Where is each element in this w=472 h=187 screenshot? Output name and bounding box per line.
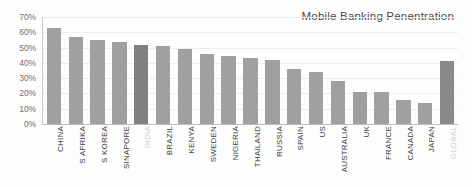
y-axis-tick: 30% — [19, 73, 36, 83]
x-axis-label: SWEDEN — [209, 126, 218, 162]
bar — [287, 69, 301, 124]
x-axis-label: AUSTRALIA — [340, 126, 349, 172]
x-axis-label: GLOBAL — [449, 126, 458, 159]
bar — [69, 37, 83, 124]
x-axis-label: FRANCE — [384, 126, 393, 160]
y-axis-tick: 0% — [24, 119, 36, 129]
y-axis-tick: 60% — [19, 27, 36, 37]
bar — [47, 28, 61, 124]
x-axis-label: S AFRIKA — [78, 126, 87, 164]
x-axis-category-labels: CHINAS AFRIKAS KOREASINAPOREINDIABRAZILK… — [42, 126, 457, 186]
x-axis-label: CHINA — [56, 126, 65, 152]
y-axis-tick: 70% — [19, 12, 36, 22]
y-axis-tick: 40% — [19, 58, 36, 68]
bar — [440, 61, 454, 124]
x-axis-label: JAPAN — [427, 126, 436, 152]
bar — [221, 56, 235, 124]
x-axis-label: US — [318, 126, 327, 138]
x-axis-label: BRAZIL — [165, 126, 174, 155]
x-axis-label: INDIA — [143, 126, 152, 148]
x-axis-label: S KOREA — [100, 126, 109, 163]
bar — [134, 45, 148, 124]
bar — [265, 60, 279, 124]
bar — [112, 42, 126, 124]
bar — [90, 40, 104, 124]
y-axis: 0%10%20%30%40%50%60%70% — [0, 17, 40, 124]
x-axis-label: KENYA — [187, 126, 196, 154]
bar — [374, 92, 388, 124]
x-axis-label: NIGERIA — [231, 126, 240, 160]
y-axis-tick: 20% — [19, 88, 36, 98]
x-axis-label: THAILAND — [253, 126, 262, 167]
bar — [200, 54, 214, 124]
x-axis-label: RUSSIA — [275, 126, 284, 157]
bar — [243, 58, 257, 124]
bar — [156, 46, 170, 124]
bar-chart: Mobile Banking Penentration 0%10%20%30%4… — [0, 0, 472, 187]
bar — [309, 72, 323, 124]
bar — [178, 49, 192, 124]
plot-area — [42, 17, 458, 125]
y-axis-tick: 50% — [19, 43, 36, 53]
x-axis-label: UK — [362, 126, 371, 138]
bar — [331, 81, 345, 124]
bar-series — [43, 17, 458, 124]
bar — [353, 92, 367, 124]
y-axis-tick: 10% — [19, 104, 36, 114]
x-axis-label: CANADA — [406, 126, 415, 161]
bar — [418, 103, 432, 124]
x-axis-label: SINAPORE — [122, 126, 131, 169]
x-axis-label: SPAIN — [296, 126, 305, 150]
bar — [396, 100, 410, 124]
